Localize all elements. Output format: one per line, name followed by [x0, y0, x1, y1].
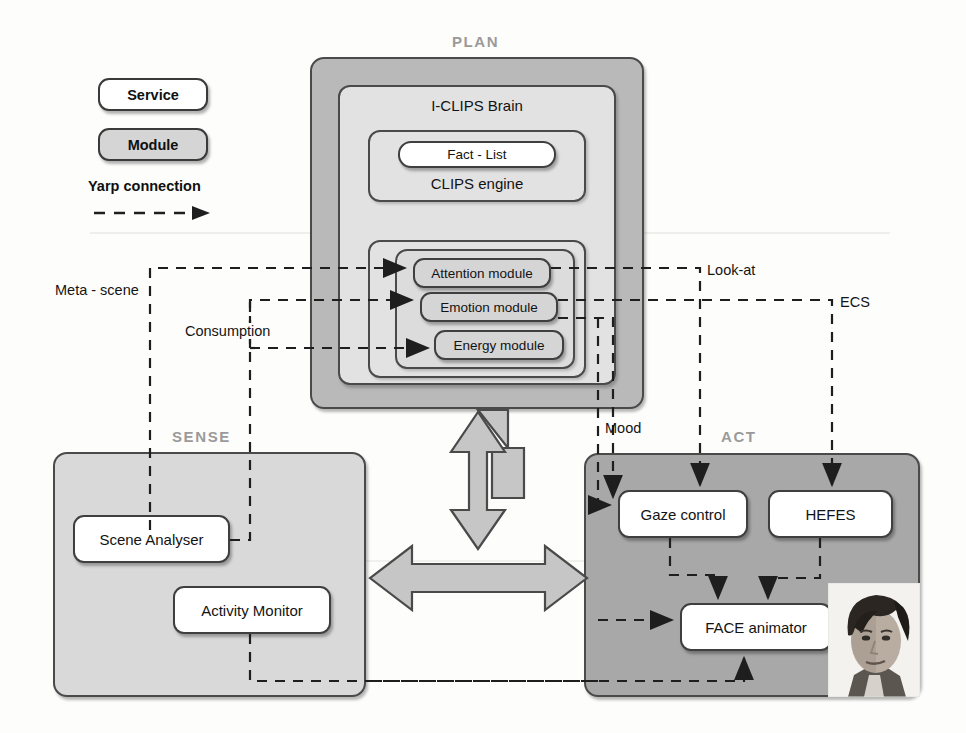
- sense-container: [53, 452, 366, 697]
- attention-module-label: Attention module: [431, 266, 532, 281]
- vertical-double-arrow: [478, 410, 524, 498]
- legend-connection-label: Yarp connection: [88, 178, 201, 194]
- sense-container-label: SENSE: [172, 428, 231, 445]
- legend-service-swatch: Service: [98, 78, 208, 111]
- label-consumption: Consumption: [182, 323, 273, 339]
- clips-engine-label: CLIPS engine: [368, 175, 586, 192]
- legend-module-swatch: Module: [98, 128, 208, 161]
- scene-analyser-label: Scene Analyser: [99, 531, 203, 548]
- activity-monitor-node: Activity Monitor: [173, 586, 331, 634]
- emotion-module-label: Emotion module: [440, 300, 538, 315]
- gaze-control-node: Gaze control: [618, 490, 748, 538]
- legend-module-label: Module: [128, 137, 179, 153]
- hefes-label: HEFES: [805, 506, 855, 523]
- dashed-arrow-icon: [90, 202, 220, 224]
- fact-list-node: Fact - List: [398, 141, 556, 168]
- fact-list-label: Fact - List: [447, 147, 506, 162]
- face-robot-photo: [828, 583, 920, 697]
- face-animator-label: FACE animator: [705, 619, 807, 636]
- label-ecs: ECS: [840, 294, 870, 310]
- emotion-module-node: Emotion module: [420, 292, 558, 322]
- legend: Service Module Yarp connection: [88, 78, 248, 228]
- iclips-brain-title: I-CLIPS Brain: [338, 97, 616, 114]
- plan-container-label: PLAN: [452, 33, 499, 50]
- energy-module-node: Energy module: [434, 330, 564, 360]
- activity-monitor-label: Activity Monitor: [201, 602, 303, 619]
- attention-module-node: Attention module: [413, 258, 551, 288]
- plan-hub-vertical-arrow: [451, 412, 505, 549]
- legend-service-label: Service: [127, 87, 179, 103]
- architecture-diagram: Service Module Yarp connection PLAN I-CL…: [0, 0, 966, 733]
- label-look-at: Look-at: [707, 262, 755, 278]
- label-meta-scene: Meta - scene: [52, 282, 142, 298]
- gaze-control-label: Gaze control: [640, 506, 725, 523]
- energy-module-label: Energy module: [454, 338, 545, 353]
- face-animator-node: FACE animator: [680, 603, 832, 651]
- hefes-node: HEFES: [768, 490, 893, 538]
- act-container-label: ACT: [721, 428, 757, 445]
- scene-analyser-node: Scene Analyser: [73, 515, 230, 563]
- label-mood: Mood: [605, 420, 641, 436]
- sense-act-horizontal-arrow: [370, 546, 587, 610]
